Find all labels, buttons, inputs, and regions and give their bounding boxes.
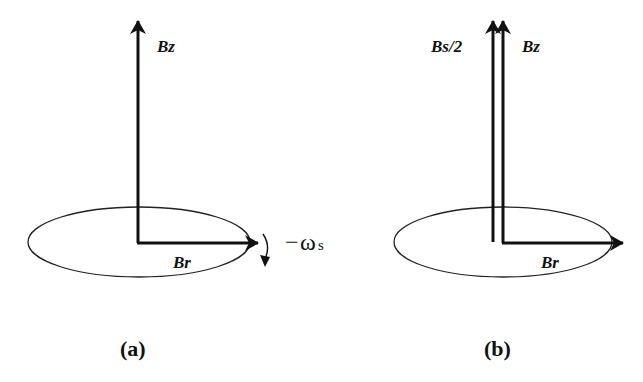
caption-b: (b) xyxy=(484,336,511,361)
br-label-a: Br xyxy=(172,253,191,272)
figure-canvas: Bz Br − ω s (a) Bs/2 Bz Br (b) xyxy=(0,0,643,382)
rotation-arrowhead-icon xyxy=(260,255,270,267)
bs2-label-b: Bs/2 xyxy=(430,37,463,56)
br-label-b: Br xyxy=(540,253,559,272)
diagram-svg: Bz Br − ω s (a) Bs/2 Bz Br (b) xyxy=(0,0,643,382)
omega-symbol: ω xyxy=(300,229,316,255)
panel-b: Bs/2 Bz Br (b) xyxy=(394,21,623,361)
omega-subscript: s xyxy=(318,237,324,253)
bz-label-a: Bz xyxy=(156,37,175,56)
bz-label-b: Bz xyxy=(521,37,540,56)
panel-a: Bz Br − ω s (a) xyxy=(28,21,324,361)
rotation-arrow-icon xyxy=(263,234,268,259)
caption-a: (a) xyxy=(120,336,146,361)
minus-sign: − xyxy=(285,229,299,255)
